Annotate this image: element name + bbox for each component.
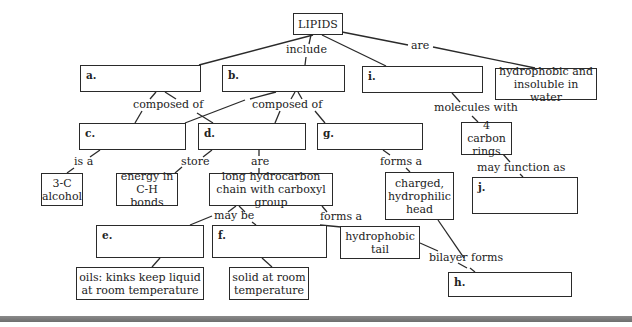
- tail-text: hydrophobic tail: [343, 230, 417, 256]
- lipids-label: LIPIDS: [298, 18, 338, 31]
- blank-box-d[interactable]: d.: [198, 123, 306, 150]
- box-g-letter: g.: [323, 127, 334, 140]
- box-b-letter: b.: [228, 69, 239, 82]
- node-3c-alcohol: 3-C alcohol: [41, 173, 83, 206]
- node-solid: solid at room temperature: [229, 267, 309, 300]
- node-hydrocarbon-chain: long hydrocarbon chain with carboxyl gro…: [209, 173, 333, 206]
- blank-box-e[interactable]: e.: [96, 225, 204, 258]
- blank-box-b[interactable]: b.: [222, 65, 345, 92]
- box-a-letter: a.: [86, 69, 96, 82]
- link-may-be: may be: [214, 210, 254, 222]
- box-h-letter: h.: [454, 276, 465, 289]
- link-forms-a-head: forms a: [380, 156, 422, 168]
- link-may-function-as: may function as: [477, 162, 565, 174]
- box-f-letter: f.: [218, 229, 226, 242]
- blank-box-f[interactable]: f.: [212, 225, 327, 258]
- chain-text: long hydrocarbon chain with carboxyl gro…: [212, 170, 330, 209]
- bottom-divider-bar: [0, 316, 632, 322]
- blank-box-c[interactable]: c.: [79, 123, 186, 150]
- link-include: include: [286, 44, 327, 56]
- solid-text: solid at room temperature: [232, 271, 306, 297]
- link-composed-of-right: composed of: [252, 99, 322, 111]
- energy-text: energy in C-H bonds: [119, 170, 175, 209]
- node-hydrophilic-head: charged, hydrophilic head: [385, 172, 454, 220]
- blank-box-g[interactable]: g.: [317, 123, 423, 150]
- hydrophobic-insoluble-text: hydrophobic and insoluble in water: [498, 65, 594, 104]
- node-lipids: LIPIDS: [293, 13, 343, 35]
- oils-text: oils: kinks keep liquid at room temperat…: [79, 271, 201, 297]
- node-energy-bonds: energy in C-H bonds: [116, 173, 178, 206]
- node-4-carbon-rings: 4 carbon rings: [461, 122, 512, 155]
- blank-box-j[interactable]: j.: [472, 177, 578, 214]
- link-composed-of-left: composed of: [133, 99, 203, 111]
- box-e-letter: e.: [102, 229, 112, 242]
- box-d-letter: d.: [204, 127, 215, 140]
- blank-box-i[interactable]: i.: [362, 66, 483, 93]
- node-hydrophobic-insoluble: hydrophobic and insoluble in water: [495, 68, 597, 100]
- link-are-top: are: [411, 40, 429, 52]
- node-oils: oils: kinks keep liquid at room temperat…: [76, 267, 204, 300]
- link-store: store: [181, 156, 209, 168]
- rings-text: 4 carbon rings: [464, 119, 509, 158]
- link-bilayer-forms: bilayer forms: [429, 252, 503, 264]
- box-j-letter: j.: [478, 181, 485, 194]
- blank-box-a[interactable]: a.: [80, 65, 201, 92]
- head-text: charged, hydrophilic head: [388, 177, 451, 216]
- alcohol-text: 3-C alcohol: [42, 177, 82, 203]
- link-are-mid: are: [251, 156, 269, 168]
- link-molecules-with: molecules with: [434, 102, 518, 114]
- node-hydrophobic-tail: hydrophobic tail: [340, 226, 420, 259]
- link-forms-a-tail: forms a: [320, 211, 362, 223]
- blank-box-h[interactable]: h.: [448, 272, 572, 297]
- box-c-letter: c.: [85, 127, 95, 140]
- box-i-letter: i.: [368, 70, 376, 83]
- link-is-a: is a: [74, 156, 93, 168]
